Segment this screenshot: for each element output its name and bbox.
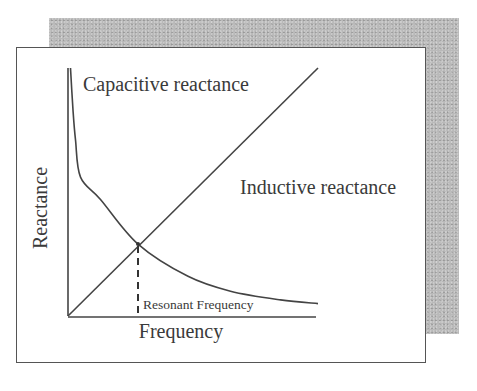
reactance-diagram: Capacitive reactance Inductive reactance… <box>0 0 477 391</box>
x-axis-label: Frequency <box>139 320 223 343</box>
capacitive-label: Capacitive reactance <box>83 73 249 96</box>
resonant-frequency-label: Resonant Frequency <box>143 297 254 312</box>
resonant-point <box>136 242 140 246</box>
y-axis-label: Reactance <box>29 167 51 249</box>
inductive-label: Inductive reactance <box>240 176 396 198</box>
